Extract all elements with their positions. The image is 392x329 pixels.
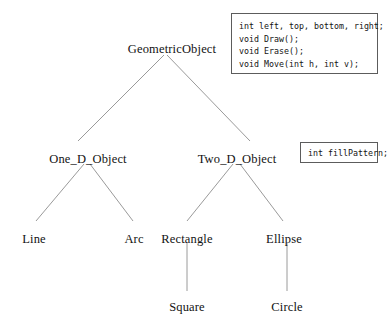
class-hierarchy-diagram: GeometricObject One_D_Object Two_D_Objec… xyxy=(0,0,392,329)
edge-one-d-object-to-line xyxy=(36,164,84,221)
node-label: Two_D_Object xyxy=(198,152,277,166)
edge-two-d-object-to-rectangle xyxy=(187,164,233,221)
edge-one-d-object-to-arc xyxy=(90,164,133,221)
node-geometric-object: GeometricObject xyxy=(128,42,216,57)
node-label: Rectangle xyxy=(161,232,212,246)
code-line: void Erase(); xyxy=(239,45,377,58)
node-label: Arc xyxy=(124,232,143,246)
code-line: int fillPattern; xyxy=(301,148,388,158)
edge-geometric-object-to-one-d-object xyxy=(78,55,164,141)
node-label: Ellipse xyxy=(266,232,302,246)
node-label: Circle xyxy=(271,300,302,314)
two-d-object-members-box: int fillPattern; xyxy=(300,142,378,163)
node-label: GeometricObject xyxy=(128,42,216,56)
node-label: Line xyxy=(22,232,46,246)
node-two-d-object: Two_D_Object xyxy=(198,152,277,167)
node-ellipse: Ellipse xyxy=(266,232,302,247)
code-line: int left, top, bottom, right; xyxy=(239,20,377,33)
code-line: void Move(int h, int v); xyxy=(239,58,377,71)
edge-two-d-object-to-ellipse xyxy=(240,164,283,221)
node-square: Square xyxy=(169,300,205,315)
node-rectangle: Rectangle xyxy=(161,232,212,247)
geometric-object-members-box: int left, top, bottom, right; void Draw(… xyxy=(231,13,378,74)
node-label: Square xyxy=(169,300,205,314)
node-label: One_D_Object xyxy=(49,152,126,166)
node-circle: Circle xyxy=(271,300,302,315)
node-line: Line xyxy=(22,232,46,247)
node-arc: Arc xyxy=(124,232,143,247)
node-one-d-object: One_D_Object xyxy=(49,152,126,167)
code-line: void Draw(); xyxy=(239,33,377,46)
